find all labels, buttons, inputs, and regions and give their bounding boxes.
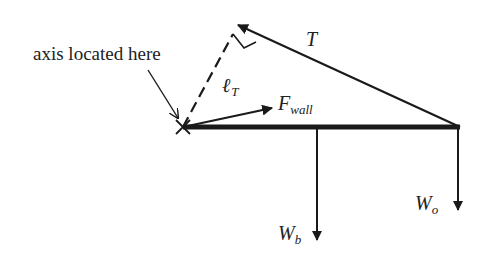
free-body-diagram: axis located here T ℓT Fwall Wb Wo [0,0,490,267]
wall-force-label: Fwall [277,92,313,117]
lever-arm-label: ℓT [222,74,239,99]
axis-pointer-arrow [148,70,178,118]
wall-force-arrow [183,108,272,127]
diagram-svg: axis located here T ℓT Fwall Wb Wo [0,0,490,267]
tension-label: T [306,28,319,50]
axis-note-label: axis located here [33,43,161,64]
object-weight-label: Wo [415,192,439,217]
tension-arrow [238,25,460,127]
right-angle-marker [233,34,256,48]
beam-weight-label: Wb [278,222,302,247]
